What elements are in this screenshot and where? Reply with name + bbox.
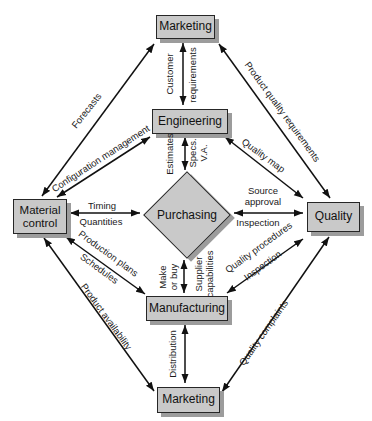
label-inspection-right: Inspection [236,218,279,229]
label-supplier-capabilities: Supplier capabilities [194,251,215,298]
relationship-diagram: Marketing Engineering Material control P… [0,0,372,421]
node-material-control: Material control [13,199,67,234]
label-customer: Customer [165,53,176,94]
label-specs-va: Specs. V.A. [188,138,209,167]
node-manufacturing: Manufacturing [146,296,228,321]
node-quality: Quality [307,202,360,232]
edge-forecasts [42,44,154,196]
label-supplier-line2: capabilities [205,251,216,298]
edge-configuration-management [57,137,150,197]
node-marketing-top: Marketing [156,15,215,39]
label-make-line2: or buy [169,264,180,290]
purchasing-label: Purchasing [137,208,237,222]
node-engineering: Engineering [152,109,228,134]
label-timing: Timing [88,201,116,212]
node-marketing-bottom: Marketing [157,387,220,413]
label-make-or-buy: Make or buy [158,264,179,290]
label-estimates: Estimates [165,133,176,175]
label-requirements: requirements [188,47,199,102]
label-specs-line2: V.A. [199,138,210,167]
label-source-approval: Source approval [245,186,281,207]
label-source-line2: approval [245,197,281,208]
label-distribution: Distribution [168,330,179,378]
label-quantities: Quantities [80,217,123,228]
